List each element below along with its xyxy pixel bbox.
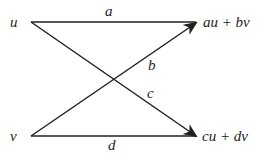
diagram-canvas: u v au + bv cu + dv a b c d: [0, 0, 265, 154]
node-output-bottom-label: cu + dv: [202, 128, 248, 144]
edge-label-c: c: [147, 85, 154, 101]
edge-label-d: d: [108, 137, 116, 153]
node-u-label: u: [10, 14, 18, 30]
edge-label-b: b: [148, 57, 156, 73]
edge-label-a: a: [105, 3, 113, 19]
node-v-label: v: [10, 128, 17, 144]
node-output-top-label: au + bv: [203, 14, 250, 30]
